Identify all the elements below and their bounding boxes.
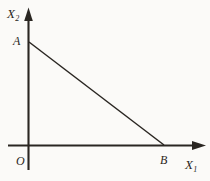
point-label-a: A <box>13 35 20 47</box>
x-axis-arrowhead <box>192 141 206 150</box>
y-axis-arrowhead <box>24 8 33 22</box>
constraint-line-ab <box>29 42 164 145</box>
x-axis-label-text: X <box>185 157 193 172</box>
point-label-b: B <box>160 154 167 166</box>
origin-label: O <box>16 155 25 167</box>
x-axis-label: X1 <box>185 158 197 171</box>
y-axis-label-subscript: 2 <box>15 14 19 23</box>
y-axis-label-text: X <box>7 6 15 21</box>
x-axis-label-subscript: 1 <box>193 165 197 174</box>
y-axis-label: X2 <box>7 7 19 20</box>
figure-canvas: X2 X1 A B O <box>0 0 210 181</box>
diagram-svg <box>0 0 210 181</box>
